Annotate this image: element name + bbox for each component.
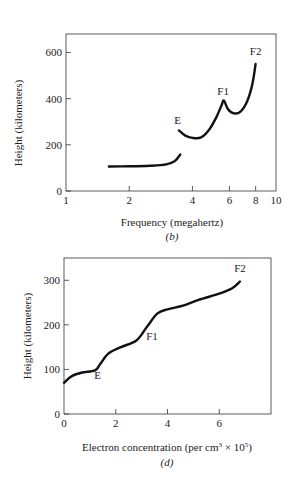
x-tick-label: 4 [190, 194, 196, 206]
y-tick-label: 0 [55, 408, 61, 420]
x-label-part: × 10 [222, 441, 245, 453]
chart-b-curves [109, 64, 256, 167]
x-tick-label: 10 [271, 194, 283, 206]
x-label-part: ) [248, 441, 252, 454]
x-tick-label: 2 [113, 417, 119, 429]
chart-b-y-axis-label: Height (kilometers) [12, 79, 25, 166]
y-tick-label: 200 [44, 319, 61, 331]
data-curve [109, 155, 180, 167]
chart-b-y-ticks: 0200400600 [46, 46, 72, 197]
chart-d-x-ticks: 0246 [61, 409, 222, 429]
chart-b-frequency-height: 0200400600 1246810 EF1F2 Height (kilomet… [12, 34, 282, 243]
x-tick-label: 4 [165, 417, 171, 429]
y-tick-label: 0 [57, 185, 63, 197]
y-tick-label: 200 [46, 139, 63, 151]
x-tick-label: 0 [61, 417, 67, 429]
x-tick-label: 1 [63, 194, 69, 206]
chart-d-y-axis-label: Height (kilometers) [21, 292, 34, 379]
chart-d-annotations: EF1F2 [94, 262, 245, 381]
chart-b-frame [66, 34, 276, 191]
chart-d-caption: (d) [161, 456, 174, 469]
chart-d-concentration-height: 0100200300 0246 EF1F2 Height (kilometers… [21, 258, 271, 469]
x-tick-label: 6 [227, 194, 233, 206]
data-curve [179, 64, 256, 138]
figure: 0200400600 1246810 EF1F2 Height (kilomet… [0, 0, 292, 482]
chart-d-x-axis-label: Electron concentration (per cm3 × 105) [82, 441, 252, 454]
y-tick-label: 100 [44, 363, 61, 375]
x-tick-label: 6 [217, 417, 223, 429]
chart-b-caption: (b) [166, 230, 179, 243]
y-tick-label: 300 [44, 274, 61, 286]
y-tick-label: 400 [46, 93, 63, 105]
x-tick-label: 2 [126, 194, 132, 206]
y-tick-label: 600 [46, 46, 63, 58]
layer-annotation: F1 [217, 85, 229, 97]
x-label-part: Electron concentration (per cm [82, 441, 219, 454]
layer-annotation: E [94, 369, 101, 381]
x-tick-label: 8 [253, 194, 259, 206]
layer-annotation: F2 [250, 45, 262, 57]
layer-annotation: F1 [146, 330, 158, 342]
chart-b-x-ticks: 1246810 [63, 186, 282, 206]
chart-d-y-ticks: 0100200300 [44, 274, 70, 420]
layer-annotation: E [174, 114, 181, 126]
chart-b-x-axis-label: Frequency (megahertz) [121, 216, 224, 229]
layer-annotation: F2 [234, 262, 246, 274]
